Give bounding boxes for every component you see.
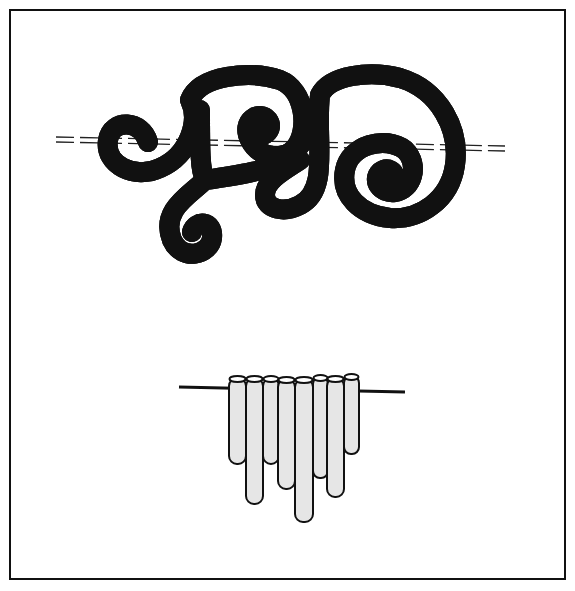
illustration-canvas (0, 0, 575, 591)
tube-group (229, 374, 359, 522)
spiral-ornament (108, 74, 456, 253)
